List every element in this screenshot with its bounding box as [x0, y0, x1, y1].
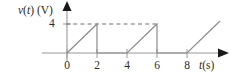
- x-axis-arrowhead: [218, 49, 229, 58]
- y-tick-label-4: 4: [49, 18, 55, 30]
- y-axis-label: v(t) (V): [18, 5, 53, 17]
- y-axis-label-unit: (V): [37, 4, 53, 16]
- x-axis-label: t(s): [199, 60, 214, 72]
- waveform-figure: v(t) (V) 4 0 2 4 6 8 t(s): [0, 0, 234, 76]
- x-tick-label-4: 4: [119, 60, 135, 72]
- x-tick-label-2: 2: [89, 60, 105, 72]
- x-axis-label-unit: (s): [202, 59, 214, 71]
- x-tick-label-6: 6: [149, 60, 165, 72]
- signal-waveform: [67, 21, 220, 53]
- y-axis-arrowhead: [63, 1, 72, 11]
- x-tick-label-8: 8: [179, 60, 195, 72]
- y-axis-label-paren-close: ): [30, 4, 34, 16]
- x-tick-label-0: 0: [59, 60, 75, 72]
